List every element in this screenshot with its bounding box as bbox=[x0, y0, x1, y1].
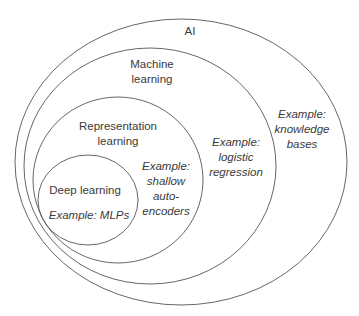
machine-learning-example-line1: Example: bbox=[212, 135, 260, 149]
venn-diagram: AI Machine learning Representation learn… bbox=[0, 0, 359, 316]
ai-label: AI bbox=[185, 24, 196, 38]
deep-learning-example: Example: MLPs bbox=[49, 208, 130, 222]
representation-learning-example-line1: Example: bbox=[142, 159, 190, 173]
deep-learning-label: Deep learning bbox=[49, 183, 121, 197]
ai-example-line2: knowledge bbox=[275, 122, 330, 136]
ai-example-line3: bases bbox=[287, 137, 318, 151]
machine-learning-label-line1: Machine bbox=[130, 57, 173, 71]
nested-ellipses bbox=[0, 0, 359, 316]
machine-learning-label-line2: learning bbox=[132, 72, 173, 86]
representation-learning-label-line2: learning bbox=[98, 134, 139, 148]
representation-learning-example-line3: auto- bbox=[153, 189, 179, 203]
machine-learning-example-line2: logistic bbox=[218, 150, 253, 164]
ai-example-line1: Example: bbox=[278, 107, 326, 121]
deep-learning-ellipse bbox=[38, 155, 138, 245]
representation-learning-example-line2: shallow bbox=[147, 174, 185, 188]
representation-learning-example-line4: encoders bbox=[142, 204, 189, 218]
representation-learning-label-line1: Representation bbox=[79, 119, 157, 133]
machine-learning-example-line3: regression bbox=[209, 165, 263, 179]
